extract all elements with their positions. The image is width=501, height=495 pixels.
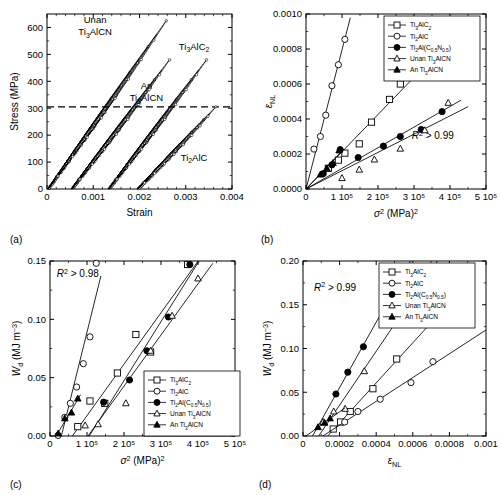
chart-text: 400 xyxy=(27,76,43,87)
data-point-marker xyxy=(82,422,89,428)
data-point-marker xyxy=(174,103,177,106)
chart-text: σ2 (MPa)2 xyxy=(374,207,418,219)
chart-text-run: AlC xyxy=(190,41,205,52)
chart-element: UnanTi3AlCNAnTi3AlCNTi3AlC2Ti2AlC xyxy=(47,14,232,189)
data-point-marker xyxy=(101,399,107,405)
panel-d-wd-vs-enl: 00.00020.00040.00060.00080.0010.000.050.… xyxy=(251,247,501,495)
chart-text-run: > 0.99 xyxy=(423,130,454,141)
chart-element xyxy=(325,81,403,172)
data-point-marker xyxy=(329,83,335,89)
chart-text: 4 10⁵ xyxy=(439,191,461,202)
chart-text-run: Ti xyxy=(181,152,189,163)
data-point-marker xyxy=(127,118,130,121)
data-point-marker xyxy=(128,163,131,166)
data-point-marker xyxy=(430,359,436,365)
chart-text: 0.0008 xyxy=(273,43,302,54)
data-point-marker xyxy=(394,33,400,39)
data-point-marker xyxy=(377,396,383,402)
chart-text: An xyxy=(141,80,153,91)
data-point-marker xyxy=(164,118,167,121)
chart-text: 0.05 xyxy=(281,387,300,398)
chart-text-run: Unan Ti xyxy=(405,302,428,309)
panel-b-enl-vs-sigma2: 01 10⁵2 10⁵3 10⁵4 10⁵5 10⁵0.00000.00020.… xyxy=(251,0,501,250)
chart-text-run: AlCN xyxy=(423,313,439,320)
chart-line xyxy=(61,276,101,436)
data-point-marker xyxy=(100,117,103,120)
data-point-marker xyxy=(158,73,161,76)
chart-text-run: Ti xyxy=(179,41,187,52)
data-point-marker xyxy=(360,344,366,350)
chart-text-run: An xyxy=(141,80,153,91)
chart-text-run: (MJ m xyxy=(11,332,22,363)
chart-rect xyxy=(75,424,81,430)
chart-rect xyxy=(386,96,392,102)
chart-text-run: AlC xyxy=(178,376,189,383)
figure-panel-grid: 00.0010.0020.0030.0040100200300400500600… xyxy=(0,0,501,495)
data-point-marker xyxy=(199,125,202,128)
panel-a-svg: 00.0010.0020.0030.0040100200300400500600… xyxy=(0,0,250,250)
chart-text-run: AlCN xyxy=(90,26,112,37)
chart-text: Ti3AlC2 xyxy=(179,41,210,54)
chart-text-run: (MJ m xyxy=(262,332,273,363)
chart-text-run: An Ti xyxy=(405,313,421,320)
chart-rect xyxy=(114,370,120,376)
chart-element xyxy=(320,109,445,177)
chart-text: 100 xyxy=(27,156,43,167)
data-point-marker xyxy=(445,99,452,105)
chart-text: 0.003 xyxy=(174,191,198,202)
chart-text: (c) xyxy=(10,479,22,490)
chart-text: εNL xyxy=(263,95,277,109)
chart-text-run: R xyxy=(314,282,321,293)
chart-text: 0.0002 xyxy=(273,148,302,159)
panel-b-svg: 01 10⁵2 10⁵3 10⁵4 10⁵5 10⁵0.00000.00020.… xyxy=(251,0,501,250)
chart-text-run: (MPa) xyxy=(131,455,161,466)
chart-text-run: AlCN xyxy=(430,302,446,309)
chart-text: 4 10⁵ xyxy=(187,438,209,449)
chart-text-run: 2 xyxy=(424,273,427,278)
chart-text: (b) xyxy=(261,234,273,245)
data-point-marker xyxy=(154,388,160,394)
chart-text-run: 2 xyxy=(206,46,210,53)
data-point-marker xyxy=(389,291,395,297)
data-point-marker xyxy=(342,419,348,425)
chart-text: 0 xyxy=(300,438,305,449)
panel-a-stress-strain: 00.0010.0020.0030.0040100200300400500600… xyxy=(0,0,250,250)
chart-text-run: AlC xyxy=(192,152,207,163)
chart-text: 0.05 xyxy=(28,372,47,383)
chart-text: 0.0002 xyxy=(325,438,354,449)
chart-text: 0.002 xyxy=(128,191,152,202)
data-point-marker xyxy=(195,275,202,281)
chart-text-run: R xyxy=(57,268,64,279)
data-point-marker xyxy=(311,146,317,152)
chart-text: 1 10⁵ xyxy=(76,438,98,449)
chart-text: 0.20 xyxy=(281,255,300,266)
chart-text-run: > 0.99 xyxy=(325,282,356,293)
chart-text-run: Al(C xyxy=(178,399,191,407)
data-point-marker xyxy=(342,36,348,42)
chart-text-run: (MPa) xyxy=(384,208,414,219)
chart-text: 0.0006 xyxy=(273,78,302,89)
chart-text: 5 10⁵ xyxy=(475,191,497,202)
chart-text: R2 > 0.99 xyxy=(412,129,455,141)
chart-text: 0.15 xyxy=(281,299,300,310)
chart-text-run: AlCN xyxy=(141,92,163,103)
data-point-marker xyxy=(333,391,339,397)
chart-text: 2 10⁵ xyxy=(367,191,389,202)
data-point-marker xyxy=(339,175,346,181)
chart-text-run: AlCN xyxy=(435,55,451,62)
data-point-marker xyxy=(140,58,143,61)
chart-text-run: > 0.98 xyxy=(68,268,99,279)
data-point-marker xyxy=(173,153,176,156)
chart-text-run: Al(C xyxy=(413,291,426,299)
chart-text-run: 2 xyxy=(429,26,432,31)
data-point-marker xyxy=(215,106,218,109)
chart-text-run: NL xyxy=(268,95,277,104)
chart-text: Ti3AlCN xyxy=(130,92,164,105)
chart-text: 5 10⁵ xyxy=(224,438,246,449)
chart-text: 0 xyxy=(38,183,43,194)
chart-text-run: ) xyxy=(449,44,451,52)
data-point-marker xyxy=(185,88,188,91)
data-point-marker xyxy=(355,408,361,414)
chart-text: 500 xyxy=(27,49,43,60)
data-point-marker xyxy=(74,384,80,390)
